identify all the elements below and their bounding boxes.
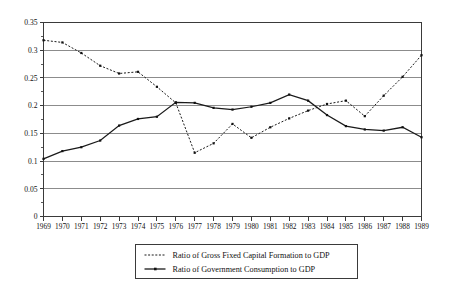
x-axis-tick-label: 1985 — [339, 222, 354, 231]
plot-border — [44, 23, 422, 217]
y-axis-tick-label: 0.35 — [24, 18, 37, 27]
x-axis-tick-label: 1978 — [206, 222, 221, 231]
y-axis-tick-label: 0.05 — [24, 185, 37, 194]
data-point — [61, 150, 63, 152]
data-point — [231, 108, 233, 110]
x-axis-tick-label: 1989 — [414, 222, 429, 231]
y-axis-ticks — [40, 23, 44, 217]
data-point — [80, 52, 82, 54]
x-axis-tick-label: 1988 — [395, 222, 410, 231]
data-point — [175, 101, 177, 103]
x-axis-tick-label: 1975 — [150, 222, 165, 231]
data-point — [420, 136, 422, 138]
data-point — [231, 123, 233, 125]
data-point — [118, 72, 120, 74]
legend-label-1: Ratio of Gross Fixed Capital Formation t… — [173, 251, 331, 260]
y-axis-tick-label: 0.3 — [28, 46, 38, 55]
chart-legend: Ratio of Gross Fixed Capital Formation t… — [136, 245, 358, 279]
data-point — [137, 71, 139, 73]
series-line-2 — [44, 95, 422, 159]
data-point — [80, 146, 82, 148]
data-point — [345, 100, 347, 102]
data-point — [326, 114, 328, 116]
data-point — [326, 103, 328, 105]
data-point — [137, 118, 139, 120]
legend-sample-marker — [154, 268, 157, 271]
x-axis-tick-label: 1983 — [301, 222, 316, 231]
data-point — [420, 54, 422, 56]
x-axis-tick-labels: 1969197019711972197319741975197619771978… — [36, 222, 429, 231]
data-point — [383, 129, 385, 131]
data-point — [288, 93, 290, 95]
data-point — [364, 128, 366, 130]
data-point — [156, 86, 158, 88]
data-point — [42, 158, 44, 160]
x-axis-tick-label: 1981 — [263, 222, 278, 231]
plot-frame — [44, 23, 422, 217]
y-axis-tick-label: 0.15 — [24, 129, 37, 138]
series-line-1 — [44, 40, 422, 153]
x-axis-tick-label: 1976 — [169, 222, 184, 231]
x-axis-tick-label: 1970 — [55, 222, 70, 231]
x-axis-tick-label: 1987 — [376, 222, 391, 231]
data-point — [156, 116, 158, 118]
x-axis-tick-label: 1977 — [187, 222, 202, 231]
data-series — [42, 39, 422, 160]
x-axis-tick-label: 1974 — [131, 222, 146, 231]
data-point — [269, 126, 271, 128]
x-axis-tick-label: 1971 — [74, 222, 89, 231]
line-chart: 00.050.10.150.20.250.30.35 1969197019711… — [0, 0, 453, 284]
data-point — [307, 110, 309, 112]
y-axis-tick-label: 0.1 — [28, 157, 38, 166]
data-point — [250, 137, 252, 139]
data-point — [194, 152, 196, 154]
data-point — [250, 106, 252, 108]
legend-label-2: Ratio of Government Consumption to GDP — [173, 265, 316, 274]
data-point — [118, 125, 120, 127]
y-axis-tick-labels: 00.050.10.150.20.250.30.35 — [24, 18, 38, 221]
x-axis-tick-label: 1972 — [93, 222, 108, 231]
data-point — [61, 41, 63, 43]
data-point — [383, 95, 385, 97]
x-axis-tick-label: 1973 — [112, 222, 127, 231]
data-point — [364, 115, 366, 117]
data-point — [99, 139, 101, 141]
data-point — [269, 102, 271, 104]
y-axis-tick-label: 0.25 — [24, 74, 37, 83]
data-point — [42, 39, 44, 41]
data-point — [402, 76, 404, 78]
x-axis-ticks — [44, 217, 422, 221]
chart-container: 00.050.10.150.20.250.30.35 1969197019711… — [0, 0, 453, 284]
y-axis-tick-label: 0.2 — [28, 101, 38, 110]
x-axis-tick-label: 1980 — [244, 222, 259, 231]
data-point — [307, 100, 309, 102]
x-axis-tick-label: 1984 — [320, 222, 335, 231]
x-axis-tick-label: 1969 — [36, 222, 51, 231]
y-axis-tick-label: 0 — [34, 212, 38, 221]
data-point — [213, 142, 215, 144]
data-point — [213, 107, 215, 109]
data-point — [345, 125, 347, 127]
grid-lines — [44, 50, 422, 189]
x-axis-tick-label: 1986 — [358, 222, 373, 231]
data-point — [194, 102, 196, 104]
x-axis-tick-label: 1982 — [282, 222, 297, 231]
data-point — [402, 126, 404, 128]
data-point — [288, 117, 290, 119]
data-point — [99, 65, 101, 67]
x-axis-tick-label: 1979 — [225, 222, 240, 231]
